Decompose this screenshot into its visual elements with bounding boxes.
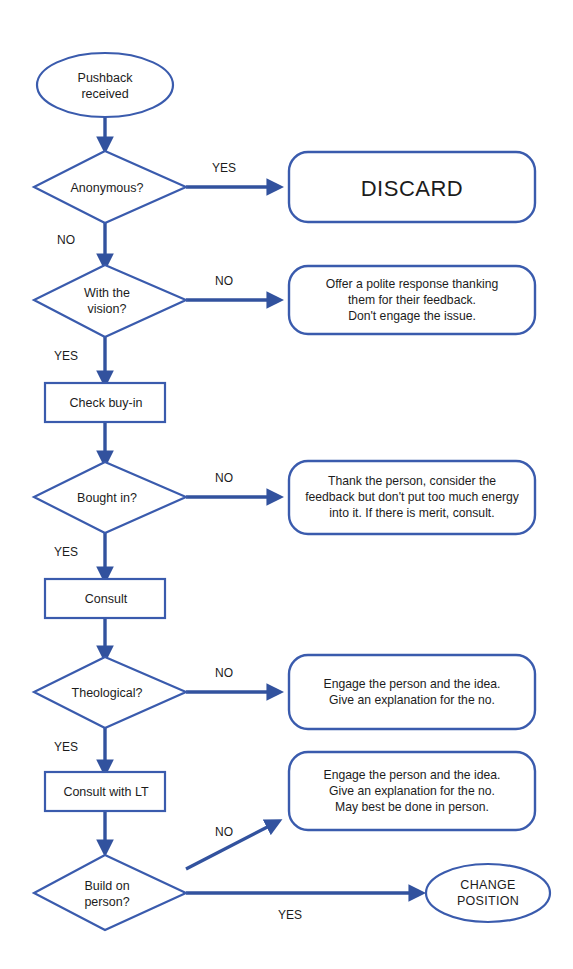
thank-person-line1: Thank the person, consider the	[328, 474, 496, 488]
outcome-engage-idea-in-person[interactable]: Engage the person and the idea. Give an …	[289, 752, 535, 830]
node-decision-with-the-vision[interactable]: With the vision?	[34, 265, 186, 337]
flowchart-canvas: YES NO NO YES NO YES NO YES NO YES Pushb…	[0, 0, 573, 969]
edge-label-theological-no: NO	[215, 666, 233, 680]
edge-label-anonymous-no: NO	[57, 233, 75, 247]
vision-label-line2: vision?	[88, 302, 127, 316]
change-position-label-line2: POSITION	[457, 894, 519, 908]
engage-idea-box-shape	[289, 655, 535, 729]
flowchart-svg: YES NO NO YES NO YES NO YES NO YES Pushb…	[0, 0, 573, 969]
theological-label: Theological?	[72, 686, 143, 700]
anonymous-label: Anonymous?	[71, 181, 144, 195]
engage-idea-in-person-line1: Engage the person and the idea.	[324, 768, 501, 782]
engage-idea-in-person-line3: May best be done in person.	[335, 800, 489, 814]
outcome-polite-response[interactable]: Offer a polite response thanking them fo…	[289, 266, 535, 334]
bought-in-label: Bought in?	[77, 491, 137, 505]
thank-person-line2: feedback but don't put too much energy	[305, 490, 520, 504]
edge-label-theological-yes: YES	[54, 740, 78, 754]
discard-label: DISCARD	[361, 176, 464, 201]
node-start[interactable]: Pushback received	[37, 53, 173, 117]
build-on-person-label-line1: Build on	[84, 879, 129, 893]
edge-label-buildon-no: NO	[215, 825, 233, 839]
start-ellipse-shape	[37, 53, 173, 117]
node-process-consult[interactable]: Consult	[45, 579, 165, 618]
edge-label-vision-yes: YES	[54, 349, 78, 363]
edge-label-vision-no: NO	[215, 274, 233, 288]
thank-person-line3: into it. If there is merit, consult.	[329, 506, 494, 520]
engage-idea-line2: Give an explanation for the no.	[329, 693, 495, 707]
vision-label-line1: With the	[84, 286, 130, 300]
vision-diamond-shape	[34, 265, 186, 337]
start-label-line2: received	[81, 87, 128, 101]
node-end-change-position[interactable]: CHANGE POSITION	[426, 864, 550, 922]
consult-label: Consult	[85, 592, 128, 606]
engage-idea-in-person-line2: Give an explanation for the no.	[329, 784, 495, 798]
engage-idea-line1: Engage the person and the idea.	[324, 677, 501, 691]
node-decision-theological[interactable]: Theological?	[34, 657, 186, 728]
check-buyin-label: Check buy-in	[70, 396, 143, 410]
outcome-discard[interactable]: DISCARD	[289, 152, 535, 222]
node-decision-build-on-person[interactable]: Build on person?	[34, 855, 186, 930]
build-on-person-label-line2: person?	[84, 895, 129, 909]
edge-label-boughtin-no: NO	[215, 471, 233, 485]
polite-response-line2: them for their feedback.	[348, 293, 476, 307]
edge-label-buildon-yes: YES	[278, 908, 302, 922]
consult-with-lt-label: Consult with LT	[63, 785, 149, 799]
change-position-label-line1: CHANGE	[460, 878, 515, 892]
edge-label-anonymous-yes: YES	[212, 161, 236, 175]
node-process-consult-with-lt[interactable]: Consult with LT	[45, 772, 165, 811]
node-decision-bought-in[interactable]: Bought in?	[34, 462, 186, 533]
outcome-thank-person[interactable]: Thank the person, consider the feedback …	[289, 461, 535, 534]
change-position-ellipse-shape	[426, 864, 550, 922]
edge-label-boughtin-yes: YES	[54, 545, 78, 559]
start-label-line1: Pushback	[78, 71, 134, 85]
node-decision-anonymous[interactable]: Anonymous?	[34, 151, 186, 223]
polite-response-line1: Offer a polite response thanking	[326, 277, 499, 291]
node-process-check-buyin[interactable]: Check buy-in	[45, 383, 165, 422]
polite-response-line3: Don't engage the issue.	[348, 309, 476, 323]
outcome-engage-idea[interactable]: Engage the person and the idea. Give an …	[289, 655, 535, 729]
